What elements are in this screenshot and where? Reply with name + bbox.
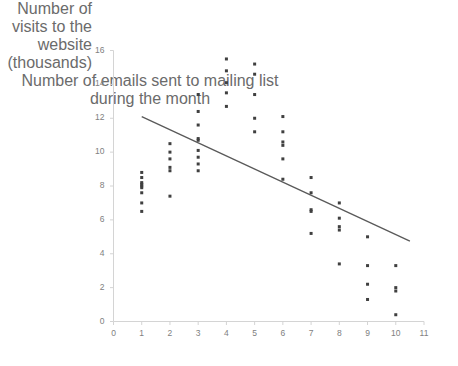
tick-marks xyxy=(110,51,424,326)
x-tick-label-2: 2 xyxy=(160,328,180,338)
x-tick-label-4: 4 xyxy=(216,328,236,338)
x-tick-label-0: 0 xyxy=(104,328,124,338)
x-tick-label-11: 11 xyxy=(414,328,434,338)
x-tick-label-9: 9 xyxy=(358,328,378,338)
x-tick-label-5: 5 xyxy=(245,328,265,338)
y-tick-label-6: 12 xyxy=(83,112,105,122)
x-tick-label-1: 1 xyxy=(132,328,152,338)
axis-lines xyxy=(114,51,425,322)
x-tick-label-8: 8 xyxy=(329,328,349,338)
x-tick-label-6: 6 xyxy=(273,328,293,338)
data-points xyxy=(140,57,397,316)
y-tick-label-8: 16 xyxy=(83,45,105,55)
y-tick-label-7: 14 xyxy=(83,78,105,88)
x-tick-label-3: 3 xyxy=(188,328,208,338)
y-tick-label-4: 8 xyxy=(83,180,105,190)
plot-area xyxy=(0,0,458,366)
y-tick-label-5: 10 xyxy=(83,146,105,156)
y-tick-label-1: 2 xyxy=(83,282,105,292)
trendline xyxy=(142,117,410,241)
x-tick-label-10: 10 xyxy=(386,328,406,338)
y-tick-label-2: 4 xyxy=(83,248,105,258)
scatter-chart-figure: Number of visits to the website (thousan… xyxy=(0,0,458,366)
y-tick-label-0: 0 xyxy=(83,316,105,326)
x-tick-label-7: 7 xyxy=(301,328,321,338)
y-tick-label-3: 6 xyxy=(83,214,105,224)
